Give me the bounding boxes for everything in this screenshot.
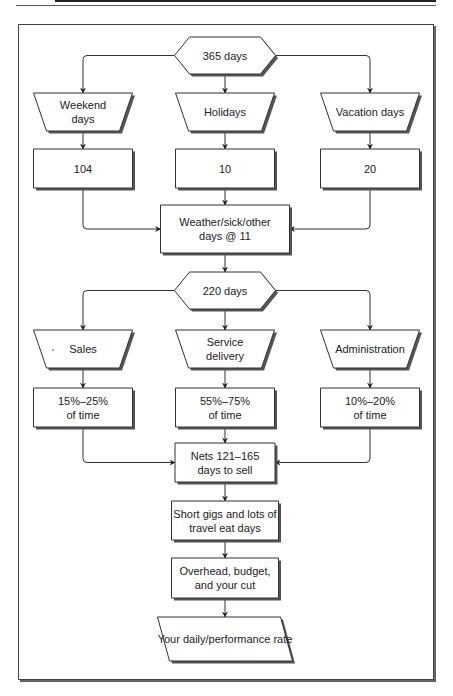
node-working-days: 220 days	[175, 272, 279, 312]
node-service-pct: 55%–75%of time	[176, 388, 278, 430]
node-administration: Administration	[321, 330, 423, 371]
edge-vacation-count-to-weather-sick	[290, 188, 371, 229]
node-label: of time	[66, 409, 99, 421]
edge-total-days-to-weekend-days	[83, 56, 175, 94]
edge-total-days-to-vacation-days	[276, 56, 371, 94]
edge-sales-pct-to-nets-days	[83, 427, 175, 463]
node-label: Overhead, budget,	[179, 565, 270, 577]
node-nets-days: Nets 121–165days to sell	[175, 443, 278, 485]
node-label: delivery	[206, 350, 244, 362]
node-label: 365 days	[203, 50, 248, 62]
node-vacation-days: Vacation days	[321, 93, 423, 134]
stray-dot	[52, 349, 54, 351]
node-daily-rate: Your daily/performance rate	[158, 617, 296, 664]
node-admin-pct: 10%–20%of time	[321, 388, 423, 430]
node-label: 10%–20%	[345, 395, 395, 407]
node-service-delivery: Servicedelivery	[176, 330, 278, 371]
node-overhead: Overhead, budget,and your cut	[172, 558, 282, 601]
node-weather-sick: Weather/sick/otherdays @ 11	[161, 205, 293, 256]
node-label: and your cut	[195, 579, 256, 591]
edge-working-days-to-administration	[276, 291, 371, 331]
node-label: 10	[219, 163, 231, 175]
node-label: Service	[207, 336, 244, 348]
node-label: 104	[74, 163, 92, 175]
edge-admin-pct-to-nets-days	[275, 427, 370, 463]
node-shape-box	[161, 205, 290, 253]
node-label: 15%–25%	[58, 395, 108, 407]
node-label: days	[71, 113, 95, 125]
node-vacation-count: 20	[321, 149, 423, 191]
node-short-gigs: Short gigs and lots oftravel eat days	[172, 501, 282, 543]
node-weekend-count: 104	[34, 149, 136, 191]
node-label: 55%–75%	[200, 395, 250, 407]
node-shape-box	[172, 558, 279, 598]
node-label: days to sell	[197, 464, 252, 476]
node-holidays: Holidays	[176, 93, 278, 134]
node-weekend-days: Weekenddays	[34, 93, 136, 134]
node-holiday-count: 10	[176, 149, 278, 191]
flowchart: 365 daysWeekenddaysHolidaysVacation days…	[0, 0, 453, 696]
node-label: 220 days	[203, 285, 248, 297]
node-label: Nets 121–165	[191, 450, 260, 462]
node-label: Weather/sick/other	[179, 216, 271, 228]
node-sales: Sales	[34, 330, 136, 371]
edge-weekend-count-to-weather-sick	[83, 188, 161, 229]
node-sales-pct: 15%–25%of time	[34, 388, 136, 430]
node-total-days: 365 days	[175, 37, 279, 77]
node-label: Your daily/performance rate	[158, 633, 293, 645]
node-label: of time	[353, 409, 386, 421]
node-label: days @ 11	[199, 230, 251, 242]
node-label: Holidays	[204, 106, 247, 118]
node-label: travel eat days	[189, 522, 261, 534]
node-label: Sales	[69, 343, 97, 355]
node-label: Vacation days	[336, 106, 405, 118]
node-label: Administration	[335, 343, 405, 355]
edge-working-days-to-sales	[83, 291, 175, 331]
node-label: Weekend	[60, 99, 106, 111]
node-label: of time	[208, 409, 241, 421]
node-label: 20	[364, 163, 376, 175]
node-label: Short gigs and lots of	[173, 508, 277, 520]
